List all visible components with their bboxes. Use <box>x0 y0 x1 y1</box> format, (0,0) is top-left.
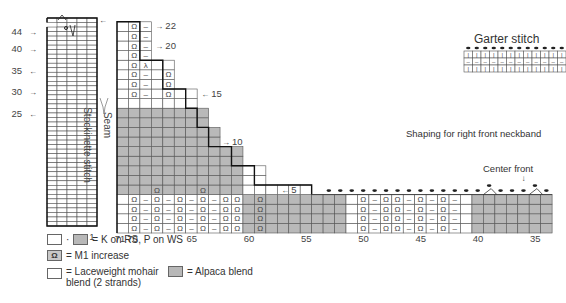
legend-mohair-text: = Laceweight mohairblend (2 strands) <box>66 266 159 288</box>
svg-text:–: – <box>189 195 194 204</box>
svg-text:Ω: Ω <box>383 205 389 214</box>
gray-swatch <box>73 234 88 245</box>
svg-text:–: – <box>407 205 412 214</box>
svg-text:Ω: Ω <box>440 205 446 214</box>
svg-text:–: – <box>143 32 148 41</box>
svg-text:Ω: Ω <box>154 195 160 204</box>
svg-text:Seam: Seam <box>102 112 113 138</box>
svg-text:–: – <box>430 214 435 223</box>
svg-text:–: – <box>189 214 194 223</box>
svg-text:50: 50 <box>358 233 369 244</box>
svg-text:–: – <box>430 205 435 214</box>
svg-text:–: – <box>166 224 171 233</box>
svg-text:35: 35 <box>11 65 22 76</box>
svg-text:65: 65 <box>186 233 197 244</box>
svg-text:Ω: Ω <box>383 195 389 204</box>
svg-text:Ω: Ω <box>223 224 229 233</box>
svg-text:55: 55 <box>301 233 312 244</box>
svg-text:Ω: Ω <box>131 90 137 99</box>
dot: · <box>66 234 69 245</box>
svg-text:–: – <box>143 205 148 214</box>
svg-text:–: – <box>372 224 377 233</box>
svg-text:Ω: Ω <box>154 186 160 195</box>
svg-text:–: – <box>430 195 435 204</box>
svg-text:–: – <box>453 205 458 214</box>
svg-text:→: → <box>29 45 37 54</box>
svg-text:–: – <box>430 224 435 233</box>
svg-text:15: 15 <box>211 88 222 99</box>
svg-text:–: – <box>143 224 148 233</box>
svg-text:–: – <box>407 214 412 223</box>
svg-text:Ω: Ω <box>131 22 137 31</box>
svg-text:Ω: Ω <box>383 214 389 223</box>
svg-text:–: – <box>372 214 377 223</box>
svg-text:Ω: Ω <box>234 224 240 233</box>
svg-text:30: 30 <box>11 86 22 97</box>
svg-text:Ω: Ω <box>257 214 263 223</box>
svg-text:–: – <box>372 195 377 204</box>
svg-text:45: 45 <box>415 233 426 244</box>
svg-text:44: 44 <box>11 26 22 37</box>
svg-text:Ω: Ω <box>131 51 137 60</box>
svg-text:–: – <box>189 224 194 233</box>
svg-text:Ω: Ω <box>395 195 401 204</box>
svg-text:Ω: Ω <box>257 205 263 214</box>
svg-text:–: – <box>143 22 148 31</box>
svg-text:–: – <box>212 214 217 223</box>
svg-text:Ω: Ω <box>395 214 401 223</box>
svg-text:Ω: Ω <box>200 224 206 233</box>
svg-text:Ω: Ω <box>257 224 263 233</box>
svg-text:60: 60 <box>244 233 255 244</box>
svg-text:Ω: Ω <box>395 224 401 233</box>
svg-text:Ω: Ω <box>234 214 240 223</box>
svg-text:–: – <box>143 80 148 89</box>
svg-text:20: 20 <box>165 40 176 51</box>
svg-text:–: – <box>143 42 148 51</box>
svg-text:Ω: Ω <box>131 70 137 79</box>
legend-alpaca: = Alpaca blend <box>168 266 253 277</box>
svg-text:Ω: Ω <box>177 205 183 214</box>
svg-text:Ω: Ω <box>440 224 446 233</box>
svg-text:Ω: Ω <box>360 214 366 223</box>
svg-text:40: 40 <box>11 43 22 54</box>
svg-text:Ω: Ω <box>360 195 366 204</box>
svg-text:–: – <box>166 214 171 223</box>
svg-text:–: – <box>143 51 148 60</box>
svg-text:Ω: Ω <box>417 224 423 233</box>
svg-text:Ω: Ω <box>154 224 160 233</box>
svg-text:Ω: Ω <box>200 205 206 214</box>
svg-text:→: → <box>29 28 37 37</box>
svg-text:←: ← <box>29 110 37 119</box>
svg-text:–: – <box>212 205 217 214</box>
svg-text:Ω: Ω <box>417 214 423 223</box>
legend-knit-text: = K on RS, P on WS <box>92 234 183 245</box>
svg-text:Ω: Ω <box>200 195 206 204</box>
svg-text:Ω: Ω <box>223 205 229 214</box>
svg-text:Ω: Ω <box>440 214 446 223</box>
svg-text:–: – <box>143 90 148 99</box>
svg-text:Ω: Ω <box>440 195 446 204</box>
svg-text:Ω: Ω <box>131 214 137 223</box>
svg-text:Ω: Ω <box>131 224 137 233</box>
svg-text:Ω: Ω <box>166 70 172 79</box>
svg-text:–: – <box>453 195 458 204</box>
center-front-label: Center front <box>483 163 533 174</box>
svg-text:Ω: Ω <box>257 195 263 204</box>
svg-text:Ω: Ω <box>200 214 206 223</box>
neckband-title: Shaping for right front neckband <box>406 128 541 139</box>
svg-text:–: – <box>212 195 217 204</box>
svg-text:→: → <box>222 138 230 147</box>
garter-stitch-title: Garter stitch <box>474 32 539 46</box>
svg-text:Ω: Ω <box>131 80 137 89</box>
svg-text:→: → <box>155 22 163 31</box>
svg-text:25: 25 <box>11 108 22 119</box>
svg-text:–: – <box>372 205 377 214</box>
svg-text:Ω: Ω <box>177 224 183 233</box>
svg-text:–: – <box>143 70 148 79</box>
svg-text:35: 35 <box>530 233 541 244</box>
mohair-swatch <box>47 268 62 279</box>
svg-text:↓: ↓ <box>521 174 525 183</box>
svg-text:←: ← <box>99 16 107 25</box>
svg-text:←: ← <box>201 90 209 99</box>
legend-m1-text: = M1 increase <box>66 250 129 261</box>
